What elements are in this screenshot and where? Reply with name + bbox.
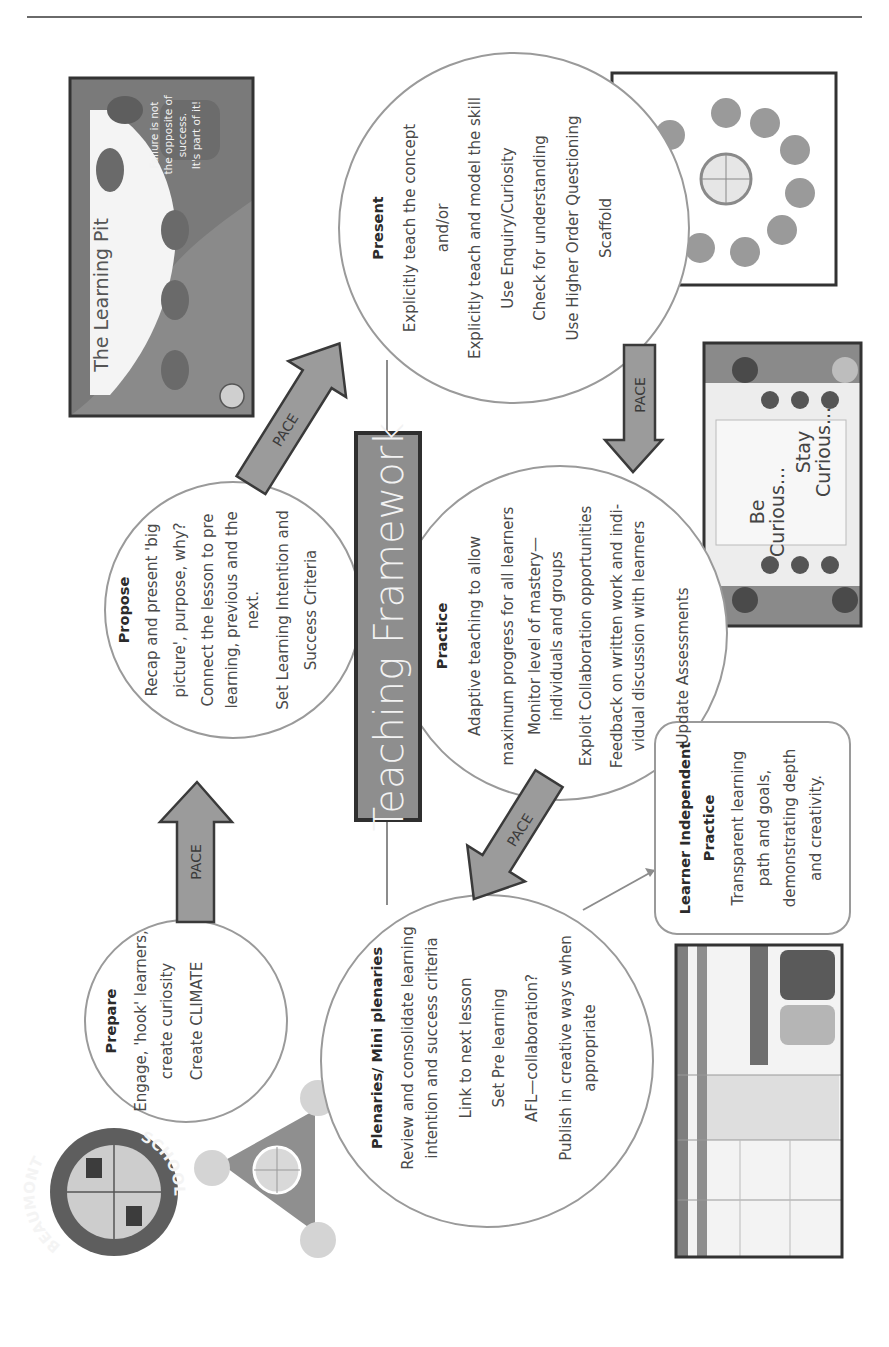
svg-text:Explicitly teach the concept: Explicitly teach the concept <box>401 124 419 332</box>
svg-text:Failure is not: Failure is not <box>148 102 160 169</box>
svg-text:AFL—collaboration?: AFL—collaboration? <box>523 974 541 1122</box>
connector-plenaries-independent <box>583 870 655 910</box>
svg-text:Explicitly teach and model the: Explicitly teach and model the skill <box>466 97 484 359</box>
svg-text:Practice: Practice <box>701 795 717 862</box>
svg-text:next.: next. <box>244 591 262 629</box>
svg-text:Set Pre learning: Set Pre learning <box>490 988 508 1107</box>
svg-text:Stay: Stay <box>792 431 814 473</box>
svg-text:Teaching Framework: Teaching Framework <box>366 423 412 832</box>
svg-text:Curious...: Curious... <box>812 407 834 497</box>
teaching-framework-diagram: The Learning Pit Failure is not the oppo… <box>0 0 889 1347</box>
svg-text:Engage, 'hook' learners,: Engage, 'hook' learners, <box>132 930 150 1112</box>
svg-text:PACE: PACE <box>188 844 204 880</box>
svg-text:Create CLIMATE: Create CLIMATE <box>188 962 206 1081</box>
svg-text:Feedback on written work and i: Feedback on written work and indi- <box>608 504 626 768</box>
svg-text:demonstrating depth: demonstrating depth <box>781 749 799 908</box>
svg-text:Publish in creative ways when: Publish in creative ways when <box>557 935 575 1161</box>
page-title: Teaching Framework <box>366 423 412 832</box>
svg-text:create curiosity: create curiosity <box>158 963 176 1080</box>
svg-text:Be: Be <box>746 500 768 525</box>
svg-text:intention and success criteria: intention and success criteria <box>423 937 441 1158</box>
svg-text:picture', purpose, why?: picture', purpose, why? <box>171 522 189 697</box>
beaumont-school-logo: BEAUMONT SCHOOL <box>20 1127 188 1256</box>
svg-text:Curious...: Curious... <box>766 467 788 557</box>
svg-text:It's part of it!: It's part of it! <box>190 101 202 169</box>
svg-text:Monitor level of mastery—: Monitor level of mastery— <box>526 537 544 735</box>
curriculum-table-image <box>676 945 842 1257</box>
svg-text:PACE: PACE <box>632 377 648 413</box>
svg-text:Set Learning Intention and: Set Learning Intention and <box>274 510 292 710</box>
svg-text:Propose: Propose <box>116 577 132 644</box>
svg-text:path and goals,: path and goals, <box>755 770 773 887</box>
svg-text:Present: Present <box>370 196 386 259</box>
svg-text:Prepare: Prepare <box>103 988 119 1053</box>
svg-text:Update Assessments: Update Assessments <box>674 587 692 744</box>
svg-text:Use Higher Order Questioning: Use Higher Order Questioning <box>564 115 582 340</box>
svg-text:Connect the lesson to pre: Connect the lesson to pre <box>199 513 217 706</box>
svg-text:Transparent learning: Transparent learning <box>729 751 747 907</box>
svg-text:vidual discussion with learner: vidual discussion with learners <box>630 521 648 752</box>
svg-text:and creativity.: and creativity. <box>807 775 825 881</box>
svg-text:Plenaries/ Mini plenaries: Plenaries/ Mini plenaries <box>369 947 385 1149</box>
svg-text:Link to next lesson: Link to next lesson <box>457 977 475 1118</box>
be-curious-image: Be Curious... Stay Curious... <box>704 343 861 626</box>
svg-text:and/or: and/or <box>434 203 452 252</box>
svg-text:Adaptive teaching to allow: Adaptive teaching to allow <box>466 536 484 736</box>
svg-text:Review and consolidate learnin: Review and consolidate learning <box>399 926 417 1169</box>
svg-text:Exploit Collaboration opportun: Exploit Collaboration opportunities <box>577 506 595 767</box>
svg-text:Practice: Practice <box>434 603 450 670</box>
svg-text:individuals and groups: individuals and groups <box>548 551 566 721</box>
svg-text:Check for understanding: Check for understanding <box>531 135 549 320</box>
svg-text:Scaffold: Scaffold <box>597 198 615 258</box>
svg-text:The Learning Pit: The Learning Pit <box>90 218 112 373</box>
svg-text:success.: success. <box>176 113 188 157</box>
pace-arrow-prepare-to-propose: PACE <box>160 782 232 922</box>
svg-text:Success Criteria: Success Criteria <box>302 550 320 671</box>
svg-text:learning, previous and the: learning, previous and the <box>223 511 241 708</box>
learning-pit-title: The Learning Pit <box>90 218 112 373</box>
svg-text:the opposite of: the opposite of <box>162 95 174 174</box>
svg-text:Recap and present 'big: Recap and present 'big <box>143 524 161 697</box>
svg-text:maximum progress for all learn: maximum progress for all learners <box>499 506 517 765</box>
svg-text:appropriate: appropriate <box>581 1004 599 1091</box>
svg-text:Learner Independent: Learner Independent <box>677 742 693 914</box>
learning-pit-image: The Learning Pit Failure is not the oppo… <box>70 78 253 416</box>
svg-text:Use Enquiry/Curiosity: Use Enquiry/Curiosity <box>499 147 517 308</box>
